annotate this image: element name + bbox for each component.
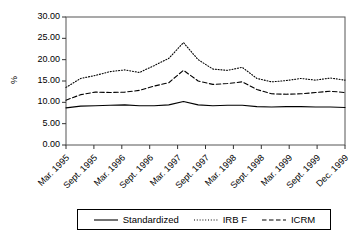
chart-figure: 0.005.0010.0015.0020.0025.0030.00%Mar. 1… <box>0 0 364 241</box>
series-line-irb-f <box>66 43 345 88</box>
y-tick-label: 30.00 <box>24 12 60 21</box>
y-tick-label: 10.00 <box>24 97 60 106</box>
legend-swatch-dotted-icon <box>193 216 219 224</box>
legend-label: Standardized <box>123 215 179 225</box>
y-tick-label: 0.00 <box>24 140 60 149</box>
y-tick-label: 20.00 <box>24 55 60 64</box>
y-tick-label: 25.00 <box>24 33 60 42</box>
plot-frame <box>66 17 345 145</box>
legend-label: IRB F <box>223 215 247 225</box>
chart-legend: StandardizedIRB FICRM <box>77 209 331 230</box>
legend-entry-irb-f[interactable]: IRB F <box>193 215 247 225</box>
series-line-standardized <box>66 101 345 107</box>
y-tick-label: 5.00 <box>24 119 60 128</box>
series-line-icrm <box>66 70 345 100</box>
legend-swatch-solid-icon <box>93 216 119 224</box>
y-tick-label: 15.00 <box>24 76 60 85</box>
legend-entry-icrm[interactable]: ICRM <box>261 215 315 225</box>
y-axis-title: % <box>9 70 19 90</box>
legend-swatch-dashed-icon <box>261 216 287 224</box>
legend-entry-standardized[interactable]: Standardized <box>93 215 179 225</box>
legend-label: ICRM <box>291 215 315 225</box>
